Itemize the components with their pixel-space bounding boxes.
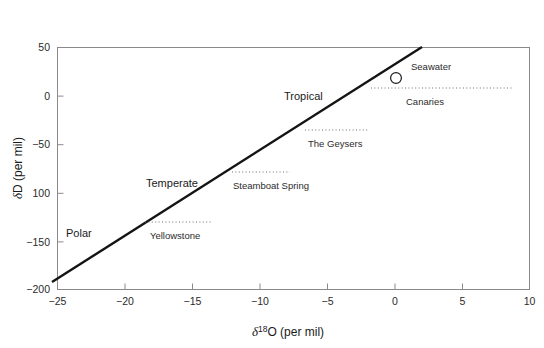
y-tick-label-50: 50 bbox=[38, 41, 50, 53]
x-tick-label-minus15: −15 bbox=[184, 295, 202, 307]
y-tick-label-minus50: −50 bbox=[32, 138, 50, 150]
zone-label-tropical: Tropical bbox=[284, 90, 323, 102]
x-tick-label-10: 10 bbox=[524, 295, 536, 307]
site-label-the-geysers: The Geysers bbox=[308, 138, 363, 149]
y-tick-label-minus150: −150 bbox=[26, 236, 50, 248]
meteoric-water-line-chart: 50 0 −50 100 −150 −200 δD (per mil) −25 … bbox=[0, 0, 544, 348]
plot-frame bbox=[58, 48, 530, 290]
x-tick-label-5: 5 bbox=[460, 295, 466, 307]
site-label-canaries: Canaries bbox=[406, 96, 444, 107]
y-axis-ticks bbox=[58, 48, 64, 290]
site-label-yellowstone: Yellowstone bbox=[150, 230, 200, 241]
x-tick-label-minus25: −25 bbox=[49, 295, 67, 307]
site-label-steamboat-spring: Steamboat Spring bbox=[233, 180, 309, 191]
x-axis-title-superscript: 18 bbox=[258, 324, 268, 334]
seawater-marker-icon bbox=[391, 73, 402, 84]
chart-figure: 50 0 −50 100 −150 −200 δD (per mil) −25 … bbox=[0, 0, 544, 348]
x-tick-label-minus20: −20 bbox=[116, 295, 134, 307]
x-axis-ticks bbox=[58, 284, 530, 290]
y-axis-tick-labels: 50 0 −50 100 −150 −200 bbox=[26, 41, 50, 295]
x-tick-label-minus10: −10 bbox=[251, 295, 269, 307]
x-axis-title: δ18O (per mil) bbox=[252, 324, 324, 339]
zone-label-temperate: Temperate bbox=[146, 177, 198, 189]
meteoric-water-line bbox=[52, 47, 422, 282]
y-tick-label-minus200: −200 bbox=[26, 283, 50, 295]
y-axis-title: δD (per mil) bbox=[10, 137, 25, 199]
x-tick-label-0: 0 bbox=[392, 295, 398, 307]
y-tick-label-minus100: 100 bbox=[32, 187, 50, 199]
x-axis-title-suffix: O (per mil) bbox=[267, 325, 324, 339]
y-tick-label-0: 0 bbox=[44, 90, 50, 102]
site-label-seawater: Seawater bbox=[411, 61, 451, 72]
x-axis-tick-labels: −25 −20 −15 −10 −5 0 5 10 bbox=[49, 295, 536, 307]
x-tick-label-minus5: −5 bbox=[322, 295, 334, 307]
zone-label-polar: Polar bbox=[66, 227, 92, 239]
